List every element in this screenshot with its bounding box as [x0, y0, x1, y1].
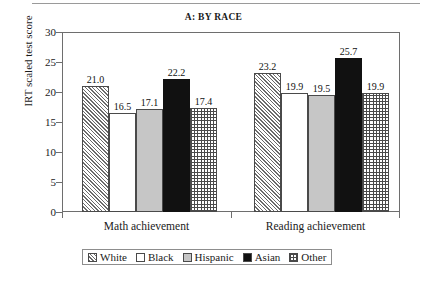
y-tick-label-5: 5: [51, 177, 57, 188]
top-divider-rule: [32, 3, 420, 4]
legend-item-asian[interactable]: Asian: [243, 252, 281, 263]
x-category-label-reading: Reading achievement: [231, 220, 400, 232]
chart-legend: White Black Hispanic Asian Other: [82, 249, 332, 265]
legend-item-hispanic[interactable]: Hispanic: [183, 252, 234, 263]
bar-reading-white[interactable]: [254, 73, 281, 212]
legend-label-asian: Asian: [255, 252, 281, 263]
bar-reading-hispanic[interactable]: [308, 95, 335, 212]
bar-label-reading-other: 19.9: [355, 82, 396, 92]
legend-swatch-other-icon: [289, 253, 298, 262]
legend-swatch-white-icon: [88, 253, 97, 262]
y-tick-label-0: 0: [51, 207, 57, 218]
bar-math-other[interactable]: [190, 108, 217, 212]
bar-reading-black[interactable]: [281, 93, 308, 212]
x-category-label-math: Math achievement: [62, 220, 231, 232]
y-tick-label-25: 25: [45, 57, 56, 68]
y-axis-ticks: 30 25 20 15 10 5 0: [0, 32, 62, 212]
legend-label-other: Other: [301, 252, 326, 263]
y-tick-label-15: 15: [45, 117, 56, 128]
x-tick-mark-right: [399, 212, 400, 218]
legend-item-other[interactable]: Other: [289, 252, 326, 263]
y-tick-label-30: 30: [45, 27, 56, 38]
legend-swatch-hispanic-icon: [183, 253, 192, 262]
y-tick-label-10: 10: [45, 147, 56, 158]
y-tick-label-20: 20: [45, 87, 56, 98]
legend-label-white: White: [100, 252, 127, 263]
legend-label-black: Black: [148, 252, 174, 263]
bar-math-black[interactable]: [109, 113, 136, 212]
bar-label-math-asian: 22.2: [156, 68, 197, 78]
x-tick-mark-middle: [231, 212, 232, 218]
x-tick-mark-left: [62, 212, 63, 218]
legend-swatch-asian-icon: [243, 253, 252, 262]
legend-swatch-black-icon: [136, 253, 145, 262]
bar-label-reading-white: 23.2: [247, 62, 288, 72]
bar-label-math-white: 21.0: [75, 75, 116, 85]
legend-item-white[interactable]: White: [88, 252, 127, 263]
chart-figure: A: BY RACE IRT scaled test score 30 25 2…: [0, 0, 427, 281]
plot-area: 21.0 16.5 17.1 22.2 17.4 23.2 19.9 19.5 …: [62, 32, 400, 212]
bar-label-math-hispanic: 17.1: [129, 98, 170, 108]
bar-reading-other[interactable]: [362, 93, 389, 212]
bar-math-hispanic[interactable]: [136, 109, 163, 212]
bar-label-reading-asian: 25.7: [328, 47, 369, 57]
bar-label-reading-hispanic: 19.5: [301, 84, 342, 94]
legend-item-black[interactable]: Black: [136, 252, 174, 263]
chart-title: A: BY RACE: [0, 12, 427, 22]
legend-label-hispanic: Hispanic: [195, 252, 234, 263]
bar-label-math-other: 17.4: [183, 97, 224, 107]
